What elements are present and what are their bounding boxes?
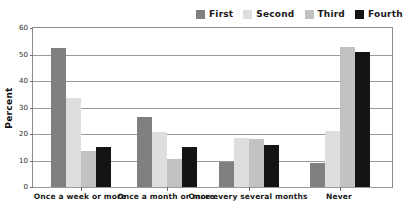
- x-tick-mark: [81, 187, 82, 191]
- bar[interactable]: [96, 147, 111, 187]
- legend-swatch-first: [196, 10, 205, 19]
- y-axis-title-text: Percent: [4, 87, 14, 128]
- bar[interactable]: [340, 47, 355, 187]
- bar[interactable]: [310, 163, 325, 187]
- bar[interactable]: [234, 138, 249, 187]
- x-axis-label: Once every several months: [188, 193, 307, 201]
- y-tick-label: 30: [19, 104, 28, 111]
- legend-label-third: Third: [318, 10, 346, 19]
- bar-group-bars: [219, 28, 279, 187]
- y-tick-label: 60: [19, 25, 28, 32]
- y-tick-label: 0: [24, 184, 28, 191]
- bar[interactable]: [264, 145, 279, 187]
- bar[interactable]: [249, 139, 264, 187]
- bar[interactable]: [81, 151, 96, 187]
- legend-label-second: Second: [256, 10, 294, 19]
- bar-group-bars: [310, 28, 370, 187]
- x-axis-label: Never: [326, 193, 352, 201]
- bar-group-bars: [137, 28, 197, 187]
- x-tick-mark: [340, 187, 341, 191]
- legend-item-third: Third: [305, 10, 346, 19]
- legend-item-first: First: [196, 10, 233, 19]
- legend-item-second: Second: [243, 10, 294, 19]
- x-axis-label: Once a week or more: [34, 193, 126, 201]
- y-tick-mark: [30, 28, 33, 29]
- x-tick-mark: [249, 187, 250, 191]
- y-tick-mark: [30, 134, 33, 135]
- y-tick-mark: [30, 187, 33, 188]
- legend-item-fourth: Fourth: [355, 10, 403, 19]
- bar-group-bars: [51, 28, 111, 187]
- bar[interactable]: [137, 117, 152, 187]
- bar-group: [137, 28, 197, 187]
- bar-group: [310, 28, 370, 187]
- bar-chart-figure: First Second Third Fourth Percent 010203…: [0, 0, 407, 217]
- bar[interactable]: [152, 132, 167, 187]
- bar[interactable]: [51, 48, 66, 187]
- legend-swatch-fourth: [355, 10, 364, 19]
- y-tick-mark: [30, 81, 33, 82]
- y-axis-title: Percent: [2, 27, 15, 188]
- bar[interactable]: [182, 147, 197, 187]
- y-tick-mark: [30, 161, 33, 162]
- y-tick-label: 10: [19, 157, 28, 164]
- bar[interactable]: [355, 52, 370, 187]
- bar[interactable]: [66, 98, 81, 187]
- bar[interactable]: [325, 131, 340, 187]
- bar[interactable]: [167, 159, 182, 187]
- bar[interactable]: [219, 162, 234, 187]
- y-tick-label: 20: [19, 131, 28, 138]
- y-tick-mark: [30, 108, 33, 109]
- chart-legend: First Second Third Fourth: [196, 7, 403, 22]
- x-tick-mark: [167, 187, 168, 191]
- legend-label-first: First: [209, 10, 233, 19]
- legend-label-fourth: Fourth: [368, 10, 403, 19]
- y-tick-label: 50: [19, 51, 28, 58]
- legend-swatch-third: [305, 10, 314, 19]
- bar-group: [219, 28, 279, 187]
- y-tick-label: 40: [19, 78, 28, 85]
- y-tick-mark: [30, 55, 33, 56]
- plot-area: 0102030405060: [32, 27, 393, 188]
- bar-group: [51, 28, 111, 187]
- gridline: [33, 187, 392, 188]
- legend-swatch-second: [243, 10, 252, 19]
